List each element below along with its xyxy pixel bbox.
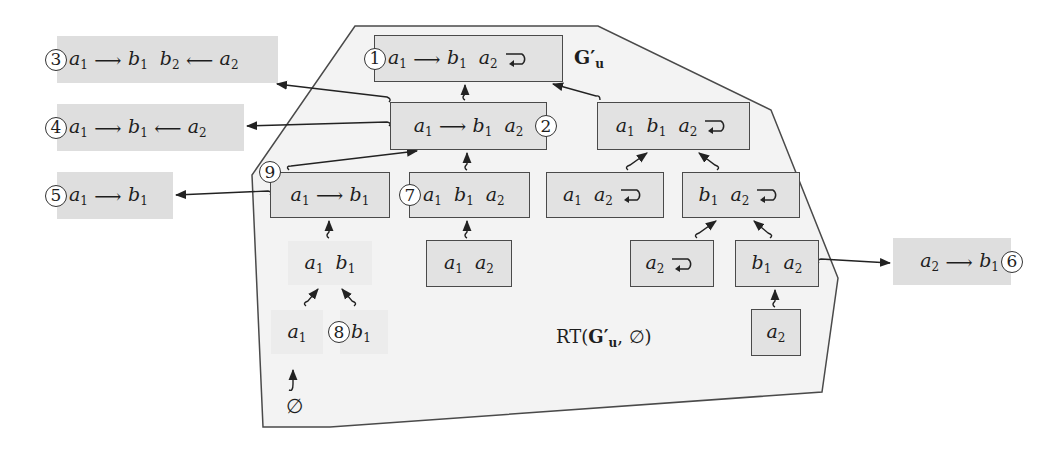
self-loop-icon [755, 187, 783, 203]
var-b1: b1 [128, 47, 148, 72]
self-loop-icon [619, 187, 647, 203]
var-a2: a2 [730, 183, 749, 208]
var-b1: b1 [350, 183, 370, 208]
var-a2: a2 [783, 251, 802, 276]
node-b1-a2-loop: b1 a2 [682, 172, 800, 218]
node-faint-a1: a1 [271, 310, 323, 354]
var-a2: a2 [646, 251, 665, 276]
var-a2: a2 [479, 46, 498, 71]
marker-3: 3 [45, 49, 67, 71]
var-b1: b1 [752, 251, 772, 276]
node-2: a1 ⟶ b1 a2 2 [390, 102, 547, 150]
var-a2: a2 [475, 251, 494, 276]
node-a1-a2: a1 a2 [426, 240, 512, 287]
arrow-left-icon: ⟵ [180, 49, 220, 71]
marker-7: 7 [399, 184, 421, 206]
marker-9: 9 [259, 161, 281, 183]
rt-region [252, 26, 838, 427]
arrow-icon: ⟶ [407, 48, 447, 70]
marker-1: 1 [364, 48, 386, 70]
var-a1: a1 [288, 320, 307, 345]
node-root-1: 1 a1 ⟶ b1 a2 [374, 35, 563, 82]
node-faint-a1-b1: a1 b1 [288, 241, 372, 285]
external-node-4: 4 a1 ⟶ b1 ⟵ a2 [57, 104, 244, 151]
var-b1: b1 [454, 183, 474, 208]
self-loop-icon [504, 51, 532, 67]
arrow-left-icon: ⟵ [148, 117, 188, 139]
var-b1: b1 [336, 251, 356, 276]
node-faint-b1: 8 b1 [340, 310, 388, 354]
var-a2: a2 [920, 249, 939, 274]
var-a2: a2 [767, 320, 786, 345]
var-a2: a2 [220, 47, 239, 72]
arrow-right-icon: ⟶ [88, 117, 128, 139]
var-b1: b1 [979, 249, 999, 274]
var-b2: b2 [160, 47, 180, 72]
external-node-3: 3 a1 ⟶ b1 b2 ⟵ a2 [57, 36, 278, 83]
var-a1: a1 [305, 251, 324, 276]
var-a1: a1 [69, 47, 88, 72]
diagram-canvas: 1 a1 ⟶ b1 a2 G′u a1 ⟶ b1 a2 2 a1 b1 a2 9… [0, 0, 1064, 452]
var-a2: a2 [678, 114, 697, 139]
var-a1: a1 [444, 251, 463, 276]
var-a1: a1 [563, 183, 582, 208]
arrow-icon: ⟶ [433, 115, 473, 137]
region-label-rt: RT(G′u, ∅) [556, 326, 652, 350]
node-a2-loop: a2 [630, 240, 714, 287]
empty-set-node: ∅ [286, 394, 303, 418]
arrow-right-icon: ⟶ [88, 185, 128, 207]
self-loop-icon [670, 256, 698, 272]
marker-5: 5 [45, 185, 67, 207]
marker-2: 2 [535, 115, 557, 137]
var-b1: b1 [473, 114, 493, 139]
arrow-right-icon: ⟶ [88, 49, 128, 71]
var-a1: a1 [69, 115, 88, 140]
arrow-right-icon: ⟶ [939, 251, 979, 273]
var-b1: b1 [647, 114, 667, 139]
node-a1-a2-loop: a1 a2 [546, 172, 664, 218]
node-b1-a2: b1 a2 [735, 240, 819, 287]
graph-label-gu: G′u [574, 46, 604, 71]
marker-4: 4 [45, 117, 67, 139]
var-b1: b1 [351, 320, 371, 345]
var-b1: b1 [447, 46, 467, 71]
var-a1: a1 [414, 114, 433, 139]
external-node-6: a2 ⟶ b1 6 [893, 238, 1011, 285]
node-9: 9 a1 ⟶ b1 [270, 172, 390, 218]
var-b1: b1 [699, 183, 719, 208]
var-b1: b1 [128, 183, 148, 208]
var-b1: b1 [128, 115, 148, 140]
var-a2: a2 [594, 183, 613, 208]
var-a2: a2 [486, 183, 505, 208]
self-loop-icon [703, 118, 731, 134]
var-a1: a1 [388, 46, 407, 71]
var-a2: a2 [188, 115, 207, 140]
var-a1: a1 [616, 114, 635, 139]
node-7: 7 a1 b1 a2 [409, 172, 530, 218]
var-a1: a1 [69, 183, 88, 208]
node-a2: a2 [751, 309, 801, 356]
var-a1: a1 [291, 183, 310, 208]
var-a1: a1 [423, 183, 442, 208]
external-node-5: 5 a1 ⟶ b1 [57, 172, 173, 219]
var-a2: a2 [504, 114, 523, 139]
arrow-icon: ⟶ [310, 184, 350, 206]
node-a1-b1-a2-loop: a1 b1 a2 [597, 102, 750, 150]
marker-6: 6 [1001, 251, 1023, 273]
marker-8: 8 [328, 321, 350, 343]
